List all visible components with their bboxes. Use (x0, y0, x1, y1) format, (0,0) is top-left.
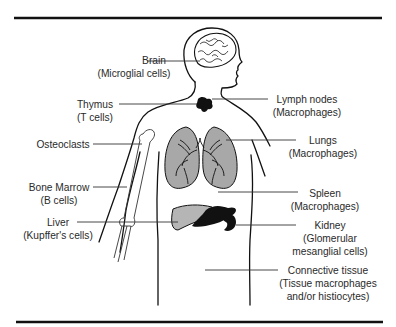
kidney (223, 214, 236, 231)
label-cell: (Glomerular (290, 232, 370, 245)
label-cell: (Kupffer's cells) (22, 229, 94, 242)
label-organ: Kidney (290, 219, 370, 232)
thymus (196, 97, 212, 112)
label-cell: (Microglial cells) (84, 67, 184, 80)
label-cell: (B cells) (26, 194, 92, 207)
label-organ: Connective tissue (276, 264, 380, 277)
brain (195, 33, 236, 67)
label-organ: Lymph nodes (272, 93, 342, 106)
label-organ: Bone Marrow (26, 181, 92, 194)
label-lymph-nodes: Lymph nodes (Macrophages) (272, 93, 342, 119)
label-thymus: Thymus (T cells) (72, 98, 118, 124)
label-organ: Osteoclasts (34, 138, 92, 151)
label-spleen: Spleen (Macrophages) (288, 187, 362, 213)
arm-bone (114, 130, 155, 262)
label-organ: Liver (22, 216, 94, 229)
label-cell-line2: and/or histiocytes) (276, 290, 380, 303)
label-cell: (T cells) (72, 111, 118, 124)
lungs (165, 127, 237, 188)
label-lungs: Lungs (Macrophages) (286, 134, 360, 160)
label-connective-tissue: Connective tissue (Tissue macrophages an… (276, 264, 380, 303)
label-cell: (Tissue macrophages (276, 277, 380, 290)
label-osteoclasts: Osteoclasts (34, 138, 92, 151)
label-cell: (Macrophages) (286, 147, 360, 160)
label-bone-marrow: Bone Marrow (B cells) (26, 181, 92, 207)
label-brain: Brain (Microglial cells) (84, 54, 184, 80)
label-organ: Thymus (72, 98, 118, 111)
label-liver: Liver (Kupffer's cells) (22, 216, 94, 242)
label-kidney: Kidney (Glomerular mesanglial cells) (290, 219, 370, 258)
label-organ: Lungs (286, 134, 360, 147)
label-cell: (Macrophages) (288, 200, 362, 213)
label-organ: Brain (84, 54, 184, 67)
label-cell: (Macrophages) (272, 106, 342, 119)
label-cell-line2: mesanglial cells) (290, 245, 370, 258)
label-organ: Spleen (288, 187, 362, 200)
